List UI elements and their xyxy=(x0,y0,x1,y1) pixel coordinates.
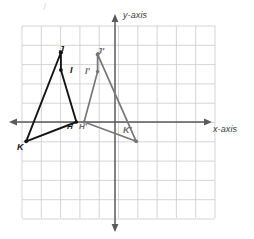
x-axis-arrow-left xyxy=(9,119,17,126)
y-axis-arrow-down xyxy=(112,224,119,232)
vertex-label-H-prime: H' xyxy=(79,123,87,131)
vertex-point-K-prime xyxy=(134,139,138,143)
y-axis-label: y-axis xyxy=(123,10,147,20)
stray-ink-mark: j xyxy=(44,1,46,10)
x-axis-label: x-axis xyxy=(213,124,237,134)
vertex-point-I xyxy=(59,68,63,72)
vertex-point-H xyxy=(75,120,79,124)
plot-canvas xyxy=(0,0,254,239)
x-axis-arrow-right xyxy=(204,119,212,126)
vertex-label-I: I xyxy=(70,66,73,75)
vertex-label-I-prime: I' xyxy=(85,67,90,76)
vertex-label-J: J xyxy=(59,45,64,54)
coordinate-plane-figure: j x-axis y-axis J I K H J' I' K' H' xyxy=(0,0,254,239)
vertex-point-K xyxy=(24,139,28,143)
vertex-label-K-prime: K' xyxy=(123,126,132,135)
vertex-point-I-prime xyxy=(96,70,99,73)
vertex-label-K: K xyxy=(17,143,24,152)
vertex-label-H: H xyxy=(67,123,73,131)
y-axis-arrow-up xyxy=(112,14,119,22)
vertex-label-J-prime: J' xyxy=(97,47,104,56)
